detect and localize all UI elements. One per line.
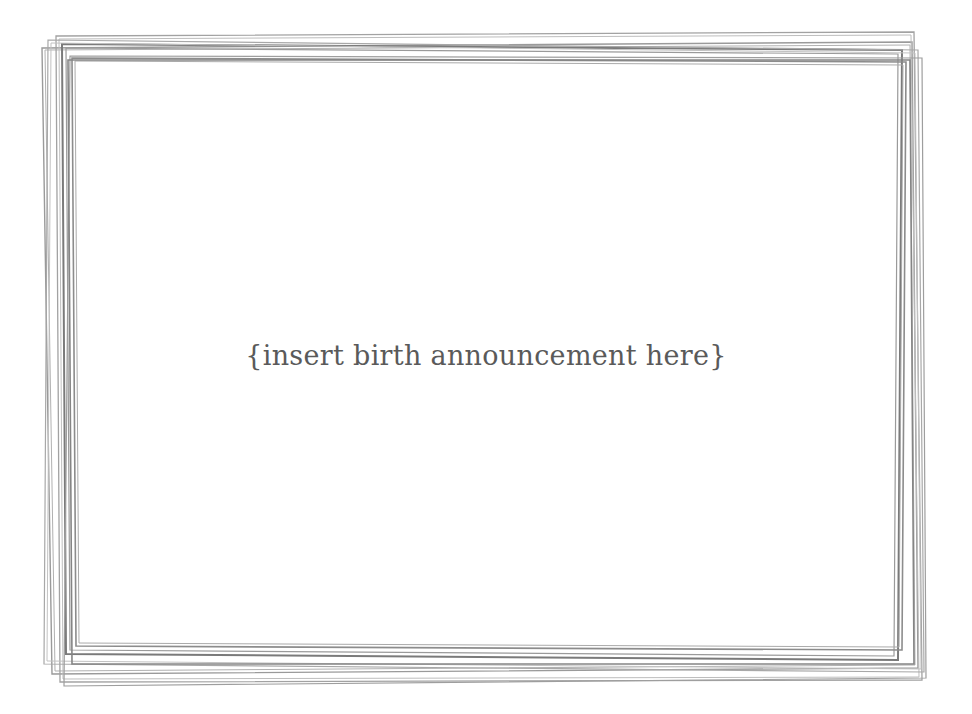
announcement-card: {insert birth announcement here} — [0, 0, 972, 714]
announcement-placeholder-text: {insert birth announcement here} — [0, 336, 972, 376]
